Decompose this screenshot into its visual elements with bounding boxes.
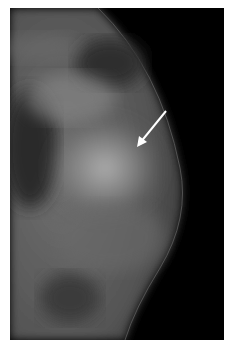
mammogram-image	[10, 8, 224, 340]
mammogram-graphic	[10, 8, 224, 340]
